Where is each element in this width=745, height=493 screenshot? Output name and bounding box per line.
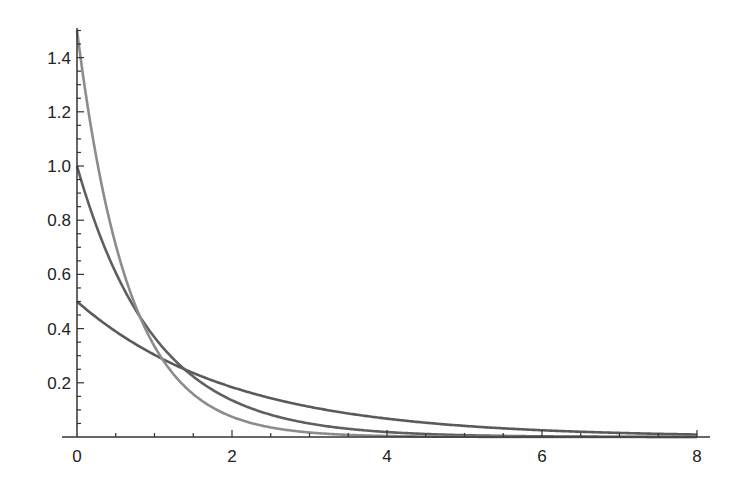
x-tick-label: 8 [692,447,701,466]
curve-lambda-1 [77,166,697,437]
axes [62,28,710,437]
y-tick-label: 1.2 [47,103,71,122]
x-tick-label: 4 [382,447,391,466]
y-tick-label: 0.2 [47,374,71,393]
y-axis-ticks: 0.20.40.60.81.01.21.4 [47,31,84,424]
x-tick-label: 2 [227,447,236,466]
y-tick-label: 1.4 [47,49,71,68]
y-tick-label: 1.0 [47,157,71,176]
plot-curves [77,31,697,438]
y-tick-label: 0.8 [47,211,71,230]
y-tick-label: 0.4 [47,320,71,339]
y-tick-label: 0.6 [47,265,71,284]
x-axis-ticks: 02468 [72,430,701,466]
curve-lambda-1-5 [77,31,697,438]
x-tick-label: 0 [72,447,81,466]
x-tick-label: 6 [537,447,546,466]
chart: 02468 0.20.40.60.81.01.21.4 [0,0,745,493]
